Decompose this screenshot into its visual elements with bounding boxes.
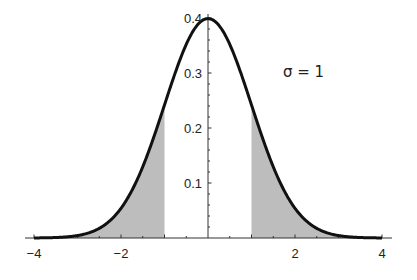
x-tick-labels: −4−224 [27, 246, 386, 261]
x-tick-label: 2 [291, 246, 298, 261]
y-tick-labels: 0.10.20.30.4 [184, 11, 202, 191]
axis-ticks [34, 18, 382, 238]
x-tick-label: −2 [114, 246, 129, 261]
sigma-annotation: σ = 1 [283, 63, 324, 81]
normal-distribution-chart: −4−224 0.10.20.30.4 σ = 1 [0, 0, 417, 280]
x-tick-label: 4 [378, 246, 385, 261]
y-tick-label: 0.1 [184, 176, 202, 191]
x-tick-label: −4 [27, 246, 42, 261]
shaded-left-tail [34, 105, 165, 238]
y-tick-label: 0.2 [184, 121, 202, 136]
y-tick-label: 0.3 [184, 66, 202, 81]
y-tick-label: 0.4 [184, 11, 202, 26]
shaded-right-tail [252, 105, 383, 238]
